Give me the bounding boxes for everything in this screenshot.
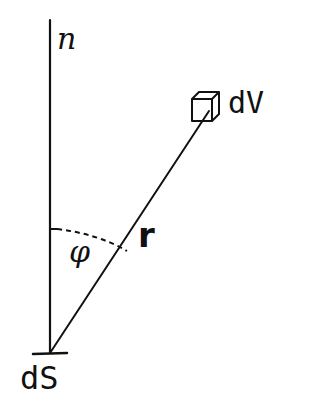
diagram-canvas xyxy=(0,0,310,417)
distance-label: r xyxy=(138,218,155,252)
angle-arc xyxy=(57,229,127,251)
normal-label: n xyxy=(57,24,76,54)
angle-label: φ xyxy=(69,237,90,267)
radius-line xyxy=(50,111,209,353)
volume-element-label: dV xyxy=(228,88,264,118)
surface-element-label: dS xyxy=(20,362,59,394)
